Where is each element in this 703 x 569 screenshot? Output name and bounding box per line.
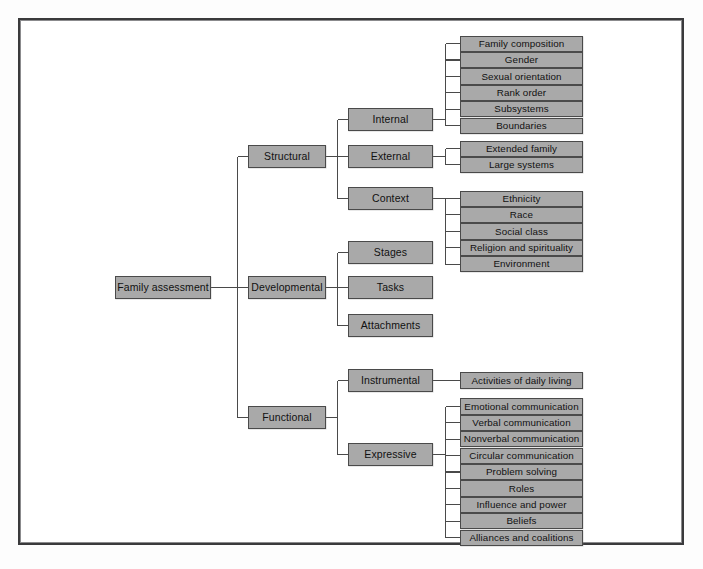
node-label: Context	[372, 193, 409, 204]
node-label: Rank order	[497, 88, 546, 98]
node-developmental[interactable]: Developmental	[248, 276, 326, 299]
leaf-religion-and-spirituality[interactable]: Religion and spirituality	[460, 240, 583, 256]
node-label: Gender	[505, 55, 538, 65]
node-label: Boundaries	[496, 121, 547, 131]
node-label: Emotional communication	[464, 402, 578, 412]
node-external[interactable]: External	[348, 145, 433, 168]
leaf-rank-order[interactable]: Rank order	[460, 85, 583, 101]
node-label: Extended family	[486, 144, 557, 154]
node-label: Stages	[374, 247, 407, 258]
leaf-family-composition[interactable]: Family composition	[460, 36, 583, 52]
node-internal[interactable]: Internal	[348, 108, 433, 131]
node-label: Instrumental	[361, 375, 420, 386]
leaf-large-systems[interactable]: Large systems	[460, 157, 583, 173]
leaf-verbal-communication[interactable]: Verbal communication	[460, 415, 583, 431]
leaf-circular-communication[interactable]: Circular communication	[460, 448, 583, 464]
leaf-alliances-and-coalitions[interactable]: Alliances and coalitions	[460, 530, 583, 546]
leaf-subsystems[interactable]: Subsystems	[460, 101, 583, 117]
node-label: Family composition	[479, 39, 565, 49]
node-label: Environment	[493, 259, 549, 269]
leaf-boundaries[interactable]: Boundaries	[460, 118, 583, 134]
node-label: Tasks	[377, 282, 404, 293]
node-label: Internal	[373, 114, 409, 125]
node-label: External	[371, 151, 410, 162]
node-label: Social class	[495, 227, 548, 237]
leaf-nonverbal-communication[interactable]: Nonverbal communication	[460, 431, 583, 447]
node-label: Race	[510, 210, 533, 220]
leaf-ethnicity[interactable]: Ethnicity	[460, 191, 583, 207]
leaf-extended-family[interactable]: Extended family	[460, 141, 583, 157]
node-label: Sexual orientation	[481, 72, 561, 82]
node-label: Developmental	[251, 282, 322, 293]
leaf-environment[interactable]: Environment	[460, 256, 583, 272]
leaf-emotional-communication[interactable]: Emotional communication	[460, 398, 583, 414]
node-functional[interactable]: Functional	[248, 406, 326, 429]
node-stages[interactable]: Stages	[348, 241, 433, 264]
node-label: Religion and spirituality	[470, 243, 573, 253]
leaf-influence-and-power[interactable]: Influence and power	[460, 497, 583, 513]
node-label: Alliances and coalitions	[469, 533, 573, 543]
leaf-roles[interactable]: Roles	[460, 480, 583, 496]
node-label: Family assessment	[117, 282, 209, 293]
node-structural[interactable]: Structural	[248, 145, 326, 168]
leaf-beliefs[interactable]: Beliefs	[460, 513, 583, 529]
leaf-activities-of-daily-living[interactable]: Activities of daily living	[460, 372, 583, 388]
node-label: Ethnicity	[503, 194, 541, 204]
leaf-problem-solving[interactable]: Problem solving	[460, 464, 583, 480]
node-label: Nonverbal communication	[464, 434, 580, 444]
node-label: Roles	[509, 484, 535, 494]
node-label: Functional	[262, 412, 311, 423]
node-label: Expressive	[364, 449, 416, 460]
leaf-race[interactable]: Race	[460, 207, 583, 223]
leaf-social-class[interactable]: Social class	[460, 223, 583, 239]
node-root[interactable]: Family assessment	[115, 276, 211, 299]
node-label: Structural	[264, 151, 310, 162]
leaf-gender[interactable]: Gender	[460, 52, 583, 68]
node-instrumental[interactable]: Instrumental	[348, 369, 433, 392]
node-label: Activities of daily living	[471, 376, 571, 386]
node-label: Subsystems	[494, 104, 548, 114]
node-label: Problem solving	[486, 467, 557, 477]
diagram-canvas: Family assessment Structural Development…	[0, 0, 703, 569]
node-label: Influence and power	[476, 500, 566, 510]
node-attachments[interactable]: Attachments	[348, 314, 433, 337]
node-label: Verbal communication	[472, 418, 570, 428]
node-label: Circular communication	[469, 451, 574, 461]
leaf-sexual-orientation[interactable]: Sexual orientation	[460, 68, 583, 84]
node-label: Beliefs	[506, 516, 536, 526]
node-label: Attachments	[361, 320, 420, 331]
node-label: Large systems	[489, 160, 554, 170]
node-expressive[interactable]: Expressive	[348, 443, 433, 466]
node-context[interactable]: Context	[348, 187, 433, 210]
node-tasks[interactable]: Tasks	[348, 276, 433, 299]
